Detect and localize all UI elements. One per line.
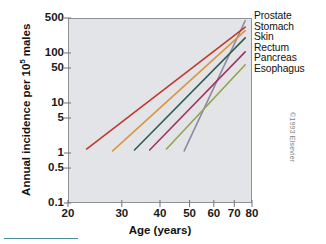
x-tick-label: 70 <box>228 207 241 219</box>
x-tick-label: 60 <box>207 207 220 219</box>
y-tick-label: 50 <box>51 62 64 73</box>
y-axis-title-main: Annual incidence per 10 <box>20 64 32 196</box>
copyright-notice: ©1993 Elsevier <box>289 112 296 162</box>
y-axis-title-tail: males <box>20 24 32 60</box>
legend-item-esophagus: Esophagus <box>254 64 326 75</box>
y-tick-label: 100 <box>45 47 64 58</box>
legend: ProstateStomachSkinRectumPancreasEsophag… <box>254 11 326 75</box>
x-axis-title: Age (years) <box>68 224 252 236</box>
x-tick-label: 80 <box>246 207 259 219</box>
y-tick-label: 0.5 <box>48 162 64 173</box>
legend-item-prostate: Prostate <box>254 11 326 22</box>
decorative-rule <box>4 238 78 239</box>
x-tick-label: 40 <box>154 207 167 219</box>
x-tick-label: 30 <box>115 207 128 219</box>
y-tick-label: 1 <box>58 147 64 158</box>
y-tick-label: 500 <box>45 12 64 23</box>
plot-area <box>68 18 252 203</box>
y-axis-title: Annual incidence per 105 males <box>18 26 32 196</box>
figure-container: 0.10.5151050100500 20304050607080 Annual… <box>0 0 326 244</box>
x-tick-label: 20 <box>62 207 75 219</box>
x-tick-label: 50 <box>183 207 196 219</box>
y-axis-title-exponent: 5 <box>18 59 27 63</box>
y-tick-label: 10 <box>51 97 64 108</box>
y-tick-label: 5 <box>58 112 64 123</box>
